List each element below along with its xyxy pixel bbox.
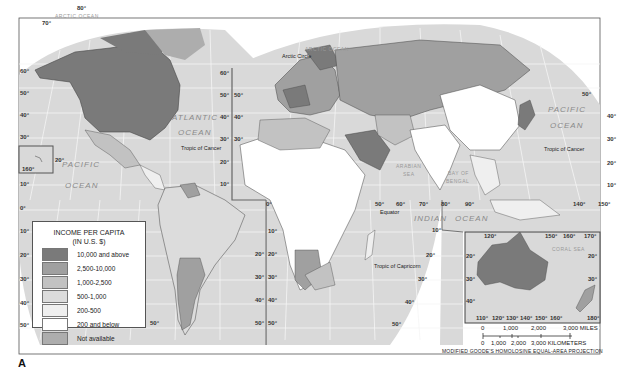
legend-item: 200 and below	[42, 318, 145, 330]
lat-label: 30°	[20, 276, 29, 282]
lat-label: 40°	[268, 297, 277, 303]
lat-label: 30°	[607, 136, 616, 142]
lat-label: 50°	[582, 91, 591, 97]
lat-label: 40°	[466, 298, 475, 304]
lon-label: 170°	[584, 233, 596, 239]
lat-label: 20°	[426, 252, 435, 258]
lon-label: 150°	[545, 233, 557, 239]
legend-title: INCOME PER CAPITA (IN U.S. $)	[33, 228, 145, 246]
scale-miles-0: 0	[481, 325, 484, 331]
income-legend: INCOME PER CAPITA (IN U.S. $) 10,000 and…	[32, 221, 146, 328]
lon-label: 160°	[563, 233, 575, 239]
lon-label: 160°	[550, 315, 562, 321]
lat-label: 70°	[42, 20, 51, 26]
tropic-of-capricorn-label: Tropic of Capricorn	[374, 263, 421, 269]
legend-swatch	[42, 290, 68, 303]
arabian-sea-label-1: ARABIAN	[396, 163, 421, 169]
scale-km-1000: 1,000	[491, 340, 506, 346]
atlantic-ocean-label-2: OCEAN	[178, 128, 211, 137]
legend-item: 1,000-2,500	[42, 276, 145, 288]
lat-label: 40°	[607, 113, 616, 119]
figure-label: A	[18, 357, 26, 369]
arctic-ocean-east-label: ARCTIC OCEAN	[305, 46, 349, 52]
indian-ocean-label-2: OCEAN	[455, 214, 488, 223]
legend-item: 10,000 and above	[42, 248, 145, 260]
lat-label: 60°	[220, 70, 229, 76]
atlantic-ocean-label-1: ATLANTIC	[172, 113, 218, 122]
lon-label: 130°	[506, 315, 518, 321]
bay-of-bengal-label-2: BENGAL	[446, 178, 469, 184]
lat-label: 20°	[466, 253, 475, 259]
lat-label: 50°	[392, 321, 401, 327]
lat-label: 40°	[220, 114, 229, 120]
lat-label: 50°	[234, 92, 243, 98]
lat-label: 20°	[20, 252, 29, 258]
bay-of-bengal-label-1: BAY OF	[448, 170, 469, 176]
tropic-of-cancer-west-label: Tropic of Cancer	[181, 145, 221, 151]
scale-km-2000: 2,000	[511, 340, 526, 346]
lon-label: 50°	[375, 201, 384, 207]
lon-label: 150°	[598, 201, 610, 207]
lon-label: 120°	[492, 315, 504, 321]
projection-note: MODIFIED GOODE'S HOMOLOSINE EQUAL-AREA P…	[442, 348, 603, 354]
lon-label: 120°	[484, 233, 496, 239]
coral-sea-label: CORAL SEA	[552, 246, 585, 252]
arabian-sea-label-2: SEA	[403, 171, 415, 177]
pacific-ocean-east-label-2: OCEAN	[550, 121, 583, 130]
lat-label: 20°	[607, 160, 616, 166]
lat-label: 20°	[55, 157, 64, 163]
lat-label: 30°	[418, 276, 427, 282]
lat-label: 50°	[268, 320, 277, 326]
lon-label: 150°	[535, 315, 547, 321]
lat-label: 50°	[150, 320, 159, 326]
lat-label: 10°	[20, 228, 29, 234]
lat-label: 30°	[466, 276, 475, 282]
tropic-of-cancer-east-label: Tropic of Cancer	[544, 146, 584, 152]
lat-label: 60°	[20, 68, 29, 74]
pacific-ocean-east-label-1: PACIFIC	[548, 105, 586, 114]
lat-label: 30°	[255, 274, 264, 280]
lon-label: 140°	[573, 201, 585, 207]
legend-swatch	[42, 332, 68, 345]
equator-label: Equator	[380, 209, 399, 215]
lat-label: 10°	[607, 182, 616, 188]
legend-item: Not available	[42, 332, 145, 344]
legend-swatch	[42, 304, 68, 317]
lat-label: 30°	[268, 274, 277, 280]
lat-label: 20°	[220, 159, 229, 165]
lon-label: 80°	[441, 201, 450, 207]
lat-label: 40°	[20, 112, 29, 118]
lon-label: 140°	[520, 315, 532, 321]
lat-label: 50°	[220, 92, 229, 98]
lat-label: 10°	[432, 227, 441, 233]
scale-km-0: 0	[481, 340, 484, 346]
lat-label: 40°	[20, 300, 29, 306]
pacific-ocean-west-label-2: OCEAN	[65, 181, 98, 190]
arctic-ocean-west-label: ARCTIC OCEAN	[55, 13, 99, 19]
scale-km-3000: 3,000 KILOMETERS	[531, 340, 586, 346]
lat-label: 40°	[255, 297, 264, 303]
legend-swatch	[42, 262, 68, 275]
lat-label: 20°	[588, 253, 597, 259]
lat-label: 0°	[20, 205, 26, 211]
lon-label: 70°	[419, 201, 428, 207]
legend-item: 2,500-10,000	[42, 262, 145, 274]
lon-label: 180°	[587, 315, 599, 321]
lat-label: 80°	[77, 5, 86, 11]
lat-label: 10°	[268, 228, 277, 234]
lat-label: 40°	[405, 299, 414, 305]
lat-label: 10°	[220, 181, 229, 187]
lat-label: 30°	[20, 134, 29, 140]
lat-label: 50°	[20, 322, 29, 328]
lon-label: 90°	[465, 201, 474, 207]
legend-item: 200-500	[42, 304, 145, 316]
lat-label: 30°	[234, 136, 243, 142]
lat-label: 50°	[20, 90, 29, 96]
lat-label: 20°	[268, 251, 277, 257]
lon-label: 60°	[396, 201, 405, 207]
lat-label: 40°	[234, 114, 243, 120]
lon-label: 160°	[22, 166, 34, 172]
lon-label: 110°	[476, 315, 488, 321]
lat-label: 20°	[255, 251, 264, 257]
legend-swatch	[42, 248, 68, 261]
